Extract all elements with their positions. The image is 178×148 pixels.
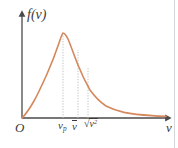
right-border-rule bbox=[174, 0, 175, 148]
figure-container: f(v) O v vp v √v2 bbox=[0, 0, 178, 148]
tick-label-mean-speed: v bbox=[72, 120, 77, 132]
tick-vbar-symbol: v bbox=[72, 120, 77, 132]
tick-vp-subscript: p bbox=[63, 125, 67, 133]
maxwell-boltzmann-curve bbox=[22, 33, 166, 118]
origin-label: O bbox=[15, 121, 24, 134]
tick-label-most-probable-speed: vp bbox=[58, 120, 67, 133]
x-axis-label-text: v bbox=[166, 120, 172, 135]
y-axis-label: f(v) bbox=[27, 8, 46, 22]
x-axis-label: v bbox=[166, 121, 172, 134]
y-axis-label-text: f(v) bbox=[27, 7, 46, 22]
guide-lines-group bbox=[63, 33, 88, 118]
radical-sign-icon: √ bbox=[84, 119, 90, 129]
origin-label-text: O bbox=[15, 120, 24, 135]
tick-vrms-exponent: 2 bbox=[94, 118, 97, 125]
tick-label-rms-speed: √v2 bbox=[84, 118, 98, 129]
